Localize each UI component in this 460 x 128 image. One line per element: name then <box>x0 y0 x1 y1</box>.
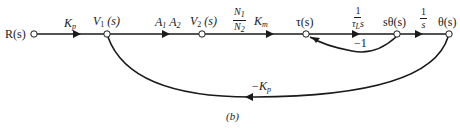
node-label-V1: V1 (s) <box>93 15 120 29</box>
node-label-tau: τ(s) <box>296 16 313 28</box>
node-label-stheta: sθ(s) <box>383 16 406 28</box>
node-V1 <box>104 31 110 37</box>
arrow-icon <box>73 30 81 38</box>
gain-1-over-s: 1 s <box>420 7 427 30</box>
arrow-icon <box>266 30 274 38</box>
arrow-icon <box>162 30 170 38</box>
gain-1-over-tauLs: 1 τLs <box>352 6 364 31</box>
arrow-icon <box>415 30 423 38</box>
node-label-R: R(s) <box>5 28 26 40</box>
node-V2 <box>199 31 205 37</box>
node-stheta <box>394 31 400 37</box>
gain-Kp: Kp <box>64 17 76 31</box>
node-label-theta: θ(s) <box>438 16 456 28</box>
figure-caption: (b) <box>226 111 239 122</box>
gain-A1A2: A1 A2 <box>155 16 180 30</box>
gain-N1-N2: N1 N2 <box>233 7 246 34</box>
gain-minus-1: −1 <box>354 37 367 49</box>
node-theta <box>446 31 452 37</box>
edge-feedback-minus1 <box>310 37 396 52</box>
node-R <box>31 31 37 37</box>
node-label-V2: V2 (s) <box>190 15 217 29</box>
gain-Km: Km <box>254 15 268 29</box>
edge-feedback-minusKp <box>108 37 448 97</box>
node-tau <box>303 31 309 37</box>
arrow-icon <box>245 93 253 101</box>
gain-minus-Kp: −Kp <box>251 80 271 94</box>
